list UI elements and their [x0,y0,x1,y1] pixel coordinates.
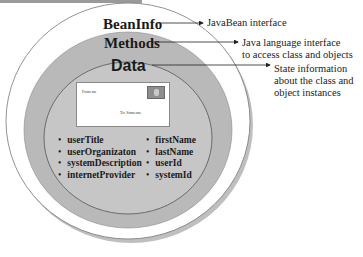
field-list-left: userTitle userOrganizaton systemDescript… [58,135,142,181]
person-photo-icon [147,86,165,99]
card-to-text: To: Someone [120,110,141,115]
data-description: State information about the class and ob… [274,63,354,99]
field-item: userId [146,158,196,170]
field-item: systemDescription [58,158,142,170]
field-item: userTitle [58,135,142,147]
card-from-text: From me [82,89,97,94]
methods-label: Methods [104,35,160,52]
message-card: From me To: Someone [76,82,170,127]
field-list-right: firstName lastName userId systemId [146,135,196,181]
methods-description: Java language interface to access class … [242,37,353,61]
field-item: systemId [146,170,196,182]
field-item: userOrganizaton [58,147,142,159]
field-item: firstName [146,135,196,147]
beaninfo-label: BeanInfo [103,16,162,33]
field-item: lastName [146,147,196,159]
data-label: Data [111,57,146,75]
beaninfo-description: JavaBean interface [207,17,287,29]
field-item: internetProvider [58,170,142,182]
